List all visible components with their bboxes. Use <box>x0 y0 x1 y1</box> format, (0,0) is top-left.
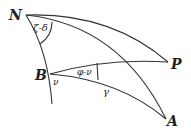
angle-arc-b <box>97 63 98 80</box>
angle-label-nu: ν <box>53 77 59 87</box>
angle-label-phi-nu: φ-ν <box>77 67 92 77</box>
label-b: B <box>34 67 47 83</box>
angle-label-n: ζ-δ <box>33 22 48 33</box>
arc-label-gamma: γ <box>103 86 109 97</box>
label-p: P <box>170 56 182 72</box>
arc-b-p <box>50 61 168 74</box>
spherical-diagram: N P B A ζ-δ ν φ-ν γ <box>0 0 191 131</box>
label-n: N <box>8 7 23 23</box>
label-a: A <box>165 113 178 129</box>
